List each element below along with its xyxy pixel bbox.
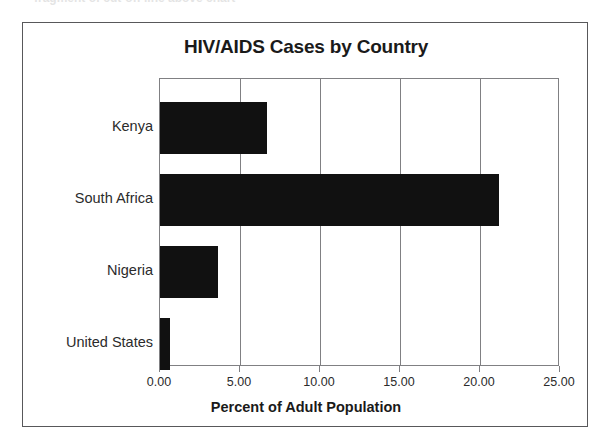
x-tick-label: 15.00 — [369, 375, 429, 389]
y-axis-category-labels: KenyaSouth AfricaNigeriaUnited States — [23, 78, 153, 366]
y-axis-label: Nigeria — [23, 262, 153, 278]
x-tick-label: 5.00 — [209, 375, 269, 389]
y-axis-label: Kenya — [23, 118, 153, 134]
x-tick-mark — [159, 366, 160, 372]
bar — [160, 174, 499, 226]
x-tick-label: 10.00 — [289, 375, 349, 389]
scan-edge-artifact: fragment of cut-off line above chart — [34, 0, 334, 5]
x-tick-label: 0.00 — [129, 375, 189, 389]
y-axis-label: South Africa — [23, 190, 153, 206]
x-tick-label: 20.00 — [449, 375, 509, 389]
x-tick-mark — [559, 366, 560, 372]
chart-frame: HIV/AIDS Cases by Country KenyaSouth Afr… — [22, 22, 588, 427]
plot-area — [159, 78, 559, 366]
x-tick-mark — [479, 366, 480, 372]
x-tick-mark — [239, 366, 240, 372]
bar — [160, 102, 267, 154]
x-tick-mark — [399, 366, 400, 372]
bar — [160, 246, 218, 298]
x-axis-ticks: 0.005.0010.0015.0020.0025.00 — [159, 366, 559, 388]
chart-title: HIV/AIDS Cases by Country — [23, 36, 589, 58]
x-tick-label: 25.00 — [529, 375, 589, 389]
y-axis-label: United States — [23, 334, 153, 350]
bar — [160, 318, 170, 370]
x-tick-mark — [319, 366, 320, 372]
x-axis-title: Percent of Adult Population — [23, 399, 589, 415]
